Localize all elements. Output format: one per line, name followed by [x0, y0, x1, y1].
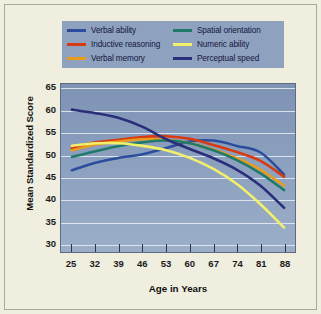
series-lines [61, 84, 295, 252]
y-tick-label: 35 [34, 217, 56, 227]
y-tick-label: 65 [34, 82, 56, 92]
legend-swatch-verbal-ability [67, 29, 86, 32]
series-line-perceptual-speed [72, 110, 284, 208]
y-tick-label: 45 [34, 172, 56, 182]
legend-swatch-numeric-ability [173, 43, 192, 46]
x-tick-label: 46 [130, 258, 154, 269]
x-tick-label: 39 [107, 258, 131, 269]
series-line-numeric-ability [72, 143, 284, 228]
x-tick-label: 60 [178, 258, 202, 269]
y-tick-label: 50 [34, 150, 56, 160]
x-tick-mark [166, 244, 167, 252]
legend-swatch-verbal-memory [67, 57, 86, 60]
x-tick-label: 32 [83, 258, 107, 269]
legend-column-right: Spatial orientation Numeric ability Perc… [173, 24, 279, 65]
x-tick-label: 88 [273, 258, 297, 269]
x-tick-label: 67 [202, 258, 226, 269]
legend-swatch-inductive-reasoning [67, 43, 86, 46]
x-tick-mark [285, 244, 286, 252]
legend-swatch-perceptual-speed [173, 57, 192, 60]
legend-item-inductive-reasoning: Inductive reasoning [67, 38, 173, 52]
legend-label-verbal-ability: Verbal ability [91, 26, 136, 35]
legend-label-numeric-ability: Numeric ability [197, 40, 249, 49]
legend-item-spatial-orientation: Spatial orientation [173, 24, 279, 38]
x-tick-mark [142, 244, 143, 252]
x-tick-mark [190, 244, 191, 252]
legend-label-perceptual-speed: Perceptual speed [197, 54, 259, 63]
legend-swatch-spatial-orientation [173, 29, 192, 32]
x-tick-mark [119, 244, 120, 252]
x-tick-label: 25 [59, 258, 83, 269]
legend-item-verbal-ability: Verbal ability [67, 24, 173, 38]
y-tick-label: 55 [34, 127, 56, 137]
x-axis-title: Age in Years [60, 283, 296, 294]
legend-item-numeric-ability: Numeric ability [173, 38, 279, 52]
y-tick-label: 60 [34, 105, 56, 115]
legend-item-perceptual-speed: Perceptual speed [173, 52, 279, 66]
x-tick-label: 53 [154, 258, 178, 269]
legend-item-verbal-memory: Verbal memory [67, 52, 173, 66]
y-tick-label: 40 [34, 194, 56, 204]
x-tick-label: 81 [249, 258, 273, 269]
x-tick-mark [261, 244, 262, 252]
x-tick-mark [71, 244, 72, 252]
legend-label-spatial-orientation: Spatial orientation [197, 26, 261, 35]
legend-label-verbal-memory: Verbal memory [91, 54, 145, 63]
chart-legend: Verbal ability Inductive reasoning Verba… [62, 21, 284, 68]
y-tick-label: 30 [34, 239, 56, 249]
x-tick-mark [95, 244, 96, 252]
plot-area [60, 83, 296, 253]
x-axis-ticks: 25323946536067748188 [60, 253, 296, 263]
legend-label-inductive-reasoning: Inductive reasoning [91, 40, 160, 49]
y-axis-title: Mean Standardized Score [24, 79, 35, 229]
chart-screenshot: Verbal ability Inductive reasoning Verba… [0, 0, 321, 314]
x-tick-label: 74 [225, 258, 249, 269]
plot-region [60, 83, 296, 253]
x-tick-mark [214, 244, 215, 252]
x-tick-mark [237, 244, 238, 252]
legend-column-left: Verbal ability Inductive reasoning Verba… [67, 24, 173, 65]
